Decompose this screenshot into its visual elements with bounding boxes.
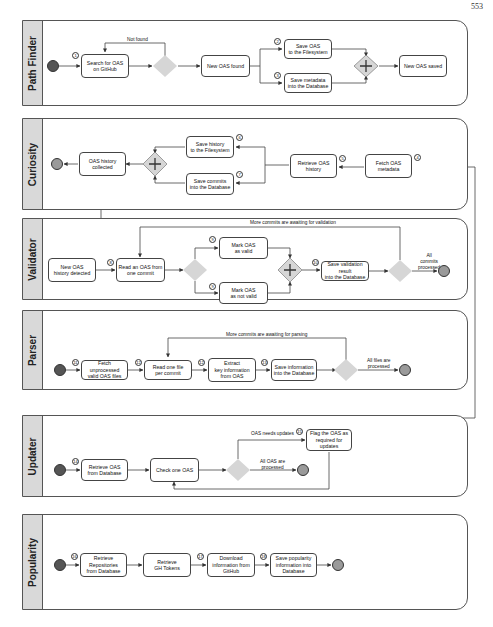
task-retrieve-repositories: Retrieve Repositories from Database [80, 553, 127, 577]
step-badge: 18 [260, 553, 267, 560]
popularity-flows [0, 0, 493, 627]
start-event [54, 559, 66, 571]
task-save-popularity-info: Save popularity information into Databas… [270, 553, 317, 577]
task-download-github-info: Download information from GitHub [207, 553, 255, 577]
task-retrieve-gh-tokens: Retrieve GH Tokens [143, 553, 191, 577]
step-badge: 17 [197, 553, 204, 560]
end-event [332, 559, 344, 571]
step-badge: 16 [71, 553, 78, 560]
